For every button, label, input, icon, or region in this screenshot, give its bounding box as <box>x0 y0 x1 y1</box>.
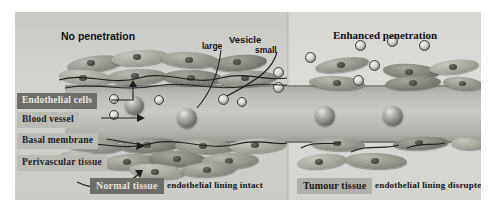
vesicle-small-extravasated <box>305 52 316 63</box>
vesicle-large-tumour <box>315 106 335 126</box>
cell-nucleus <box>415 140 423 145</box>
label-basal-membrane: Basal membrane <box>17 133 98 149</box>
cell-nucleus <box>333 80 341 86</box>
vesicle-small-extravasated <box>419 40 430 51</box>
vesicle-large-tumour <box>383 106 403 126</box>
cell-nucleus <box>131 73 139 79</box>
vesicle-small <box>109 110 119 120</box>
cell-nucleus <box>133 54 141 60</box>
vesicle-small <box>237 97 247 107</box>
cell-nucleus <box>233 59 241 65</box>
label-perivascular-tissue: Perivascular tissue <box>17 155 107 171</box>
cell-nucleus <box>371 158 379 164</box>
cell-nucleus <box>173 156 181 162</box>
cell-nucleus <box>151 169 159 175</box>
cell-nucleus <box>459 81 466 86</box>
legend-vesicle-title: Vesicle <box>229 34 261 45</box>
legend-small: small <box>255 45 277 55</box>
header-no-penetration: No penetration <box>61 30 135 42</box>
header-enhanced-penetration: Enhanced penetration <box>333 29 437 41</box>
cell-nucleus <box>185 57 193 63</box>
vesicle-small <box>109 94 119 104</box>
vesicle-small <box>218 94 229 105</box>
cell-nucleus <box>123 159 131 165</box>
vesicle-small-extravasated <box>273 82 284 93</box>
vesicle-large <box>125 96 144 115</box>
vesicle-small <box>154 95 164 105</box>
cell-nucleus <box>449 64 457 70</box>
cell-nucleus <box>203 167 211 173</box>
caption-endothelial-lining-disrupted: endothelial lining disrupted <box>375 181 481 190</box>
cell-nucleus <box>87 60 95 66</box>
blood-vessel-lumen <box>65 86 481 142</box>
vesicle-small-extravasated <box>355 40 366 51</box>
vesicle-small-extravasated <box>273 67 284 78</box>
legend-large: large <box>202 41 222 51</box>
cell-nucleus <box>251 142 259 148</box>
vesicle-small-extravasated <box>353 75 364 86</box>
diagram-frame: No penetration Enhanced penetration larg… <box>15 12 481 200</box>
cell-nucleus <box>409 80 417 86</box>
label-tumour-tissue: Tumour tissue <box>297 178 372 194</box>
label-blood-vessel: Blood vessel <box>17 112 79 128</box>
cell-nucleus <box>315 159 323 165</box>
cell-nucleus <box>405 69 413 75</box>
figure-canvas: No penetration Enhanced penetration larg… <box>0 0 497 212</box>
cell-nucleus <box>337 62 345 68</box>
cell-nucleus <box>199 143 207 149</box>
cell-nucleus <box>241 75 249 81</box>
label-endothelial-cells: Endothelial cells <box>17 93 97 109</box>
vesicle-small-extravasated <box>369 60 380 71</box>
label-normal-tissue: Normal tissue <box>90 178 164 194</box>
vesicle-large <box>177 108 197 128</box>
cell-nucleus <box>143 142 151 148</box>
cell-nucleus <box>187 75 195 81</box>
cell-nucleus <box>333 141 341 146</box>
cell-nucleus <box>79 75 87 81</box>
caption-endothelial-lining-intact: endothelial lining intact <box>167 181 263 190</box>
